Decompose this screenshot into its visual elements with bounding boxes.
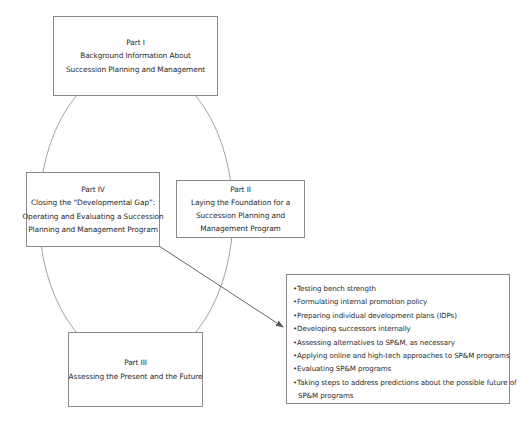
activity-item: •Testing bench strength bbox=[293, 282, 509, 295]
part-1-title: Part I bbox=[126, 36, 145, 49]
activity-item: •Applying online and high-tech approache… bbox=[293, 349, 509, 362]
activities-box: •Testing bench strength •Formulating int… bbox=[286, 274, 510, 404]
activity-item-continuation: SP&M programs bbox=[293, 389, 509, 402]
activity-item: •Developing successors internally bbox=[293, 322, 509, 335]
part-1-line: Background Information About bbox=[80, 49, 191, 62]
activity-item: •Taking steps to address predictions abo… bbox=[293, 376, 509, 389]
part-3-line: Assessing the Present and the Future bbox=[69, 370, 203, 383]
part-4-box: Part IV Closing the “Developmental Gap”:… bbox=[26, 172, 160, 247]
part-2-title: Part II bbox=[230, 183, 251, 196]
part-3-title: Part III bbox=[124, 356, 147, 369]
activity-item: •Assessing alternatives to SP&M, as nece… bbox=[293, 336, 509, 349]
part-1-line: Succession Planning and Management bbox=[66, 63, 205, 76]
part-1-box: Part I Background Information About Succ… bbox=[53, 16, 218, 96]
part-4-line: Closing the “Developmental Gap”: bbox=[31, 196, 155, 209]
arrow-part4-to-activities bbox=[159, 246, 283, 327]
part-2-line: Management Program bbox=[200, 222, 280, 235]
part-4-title: Part IV bbox=[81, 183, 104, 196]
activity-item: •Preparing individual development plans … bbox=[293, 309, 509, 322]
activity-item: •Formulating internal promotion policy bbox=[293, 295, 509, 308]
part-4-line: Operating and Evaluating a Succession bbox=[22, 210, 163, 223]
part-2-box: Part II Laying the Foundation for a Succ… bbox=[176, 180, 305, 238]
activity-item: •Evaluating SP&M programs bbox=[293, 362, 509, 375]
part-2-line: Succession Planning and bbox=[196, 209, 285, 222]
part-3-box: Part III Assessing the Present and the F… bbox=[68, 332, 203, 407]
part-4-line: Planning and Management Program bbox=[28, 223, 158, 236]
part-2-line: Laying the Foundation for a bbox=[191, 196, 290, 209]
